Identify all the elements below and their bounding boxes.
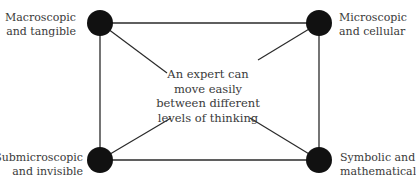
center-line3: between different (148, 96, 268, 111)
node-top-right (306, 10, 332, 36)
center-line4: levels of thinking (148, 111, 268, 126)
label-top-right: Microscopic and cellular (339, 11, 407, 39)
node-bottom-right (306, 147, 332, 173)
label-top-right-line2: and cellular (339, 25, 407, 39)
label-top-left: Macroscopic and tangible (5, 11, 76, 39)
center-line1: An expert can (148, 67, 268, 82)
label-bottom-right-line1: Symbolic and (340, 151, 416, 165)
label-bottom-right-line2: mathematical (340, 165, 416, 179)
label-top-right-line1: Microscopic (339, 11, 407, 25)
center-line2: move easily (148, 82, 268, 97)
node-top-left (87, 10, 113, 36)
label-top-left-line2: and tangible (5, 25, 76, 39)
label-top-left-line1: Macroscopic (5, 11, 76, 25)
label-bottom-left: Submicroscopic and invisible (0, 151, 83, 179)
label-bottom-left-line2: and invisible (0, 165, 83, 179)
node-bottom-left (87, 147, 113, 173)
center-statement: An expert can move easily between differ… (148, 67, 268, 125)
label-bottom-right: Symbolic and mathematical (340, 151, 416, 179)
label-bottom-left-line1: Submicroscopic (0, 151, 83, 165)
